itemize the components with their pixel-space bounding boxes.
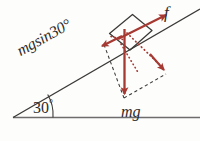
label-weight-mg: mg	[121, 104, 141, 120]
label-friction-f: f	[164, 4, 169, 21]
force-diagram-figure: mgsin30° f mg 30°	[0, 0, 200, 141]
force-diagram-canvas	[0, 0, 200, 141]
dashed-construction-bottom	[124, 74, 166, 98]
vector-friction-f	[118, 15, 166, 39]
degree-symbol: °	[49, 98, 53, 109]
label-incline-angle: 30°	[33, 99, 53, 116]
dashed-construction-left	[104, 45, 124, 99]
vector-mgcos30-component	[150, 54, 164, 70]
angle-value: 30	[33, 99, 49, 116]
